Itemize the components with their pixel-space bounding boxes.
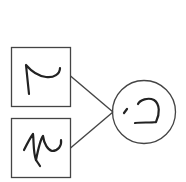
handwritten-digit-glyph-1 [26, 65, 60, 94]
output-circle [113, 81, 176, 144]
handwritten-digit-glyph-2 [24, 134, 61, 160]
handwritten-digit-glyph-output-mark [124, 109, 127, 113]
diagram-canvas [0, 0, 186, 182]
input-node-1 [12, 48, 71, 107]
handwritten-digit-glyph-2-tail [36, 160, 40, 166]
edge-input-2-to-output [71, 112, 114, 148]
input-node-2 [12, 119, 71, 178]
edge-input-1-to-output [71, 76, 114, 112]
handwritten-digit-glyph-output [135, 99, 159, 123]
input-box-2 [12, 119, 71, 178]
output-node [113, 81, 176, 144]
